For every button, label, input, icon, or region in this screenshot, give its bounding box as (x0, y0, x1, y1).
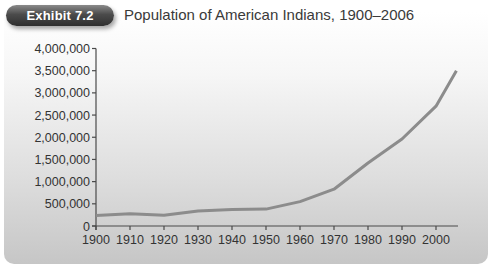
x-tick-label: 1930 (184, 233, 212, 247)
x-tick-label: 1920 (150, 233, 178, 247)
x-axis: 1900191019201930194019501960197019801990… (82, 226, 458, 247)
y-tick-label: 3,500,000 (34, 64, 90, 78)
y-tick-label: 3,000,000 (34, 86, 90, 100)
x-tick-label: 1960 (286, 233, 314, 247)
x-tick-label: 1950 (252, 233, 280, 247)
y-tick-label: 2,500,000 (34, 109, 90, 123)
y-tick-label: 500,000 (45, 197, 90, 211)
x-tick-label: 1900 (82, 233, 110, 247)
data-series (96, 71, 456, 216)
y-tick-label: 0 (83, 220, 90, 234)
y-tick-label: 4,000,000 (34, 42, 90, 56)
x-tick-label: 1970 (320, 233, 348, 247)
y-tick-label: 2,000,000 (34, 131, 90, 145)
y-tick-label: 1,000,000 (34, 175, 90, 189)
x-tick-label: 1980 (354, 233, 382, 247)
y-axis: 0500,0001,000,0001,500,0002,000,0002,500… (34, 42, 96, 234)
x-tick-label: 2000 (422, 233, 450, 247)
population-line (96, 71, 456, 216)
y-tick-label: 1,500,000 (34, 153, 90, 167)
line-chart: 0500,0001,000,0001,500,0002,000,0002,500… (0, 0, 491, 269)
x-tick-label: 1990 (388, 233, 416, 247)
x-tick-label: 1940 (218, 233, 246, 247)
x-tick-label: 1910 (116, 233, 144, 247)
